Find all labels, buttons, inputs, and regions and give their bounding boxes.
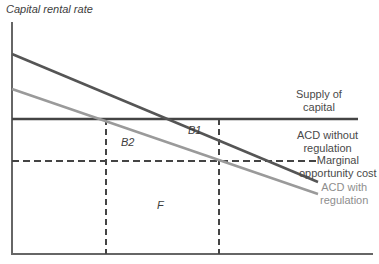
supply-of-capital-label: Supply of capital bbox=[296, 88, 342, 114]
diagram: Capital rental rate Supply of capital AC… bbox=[0, 0, 379, 264]
supply-label-line1: Supply of bbox=[296, 88, 342, 101]
area-label-b1: B1 bbox=[188, 124, 201, 136]
acd-with-regulation-label: ACD with regulation bbox=[320, 181, 368, 207]
y-axis-title: Capital rental rate bbox=[6, 3, 93, 15]
acd-with-regulation-line bbox=[12, 89, 318, 194]
acd-without-regulation-label: ACD without regulation bbox=[297, 129, 358, 155]
area-label-b2: B2 bbox=[121, 136, 134, 148]
acd-without-label-line1: ACD without bbox=[297, 129, 358, 142]
supply-label-line2: capital bbox=[296, 101, 342, 114]
moc-label-line2: opportunity cost bbox=[299, 167, 377, 180]
area-label-f: F bbox=[157, 199, 164, 211]
acd-with-label-line1: ACD with bbox=[320, 181, 368, 194]
acd-with-label-line2: regulation bbox=[320, 194, 368, 207]
moc-label-line1: Marginal bbox=[299, 154, 377, 167]
marginal-opportunity-cost-label: Marginal opportunity cost bbox=[299, 154, 377, 180]
